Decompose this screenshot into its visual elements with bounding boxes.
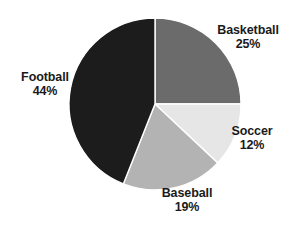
slice-label-baseball: Baseball 19% <box>141 186 233 214</box>
slice-label-baseball-name: Baseball <box>162 186 213 200</box>
slice-label-basketball-value: 25% <box>205 37 291 51</box>
slice-label-soccer-value: 12% <box>213 138 291 152</box>
slice-label-football: Football 44% <box>6 70 84 98</box>
slice-label-soccer: Soccer 12% <box>213 124 291 152</box>
slice-label-baseball-value: 19% <box>141 200 233 214</box>
slice-label-basketball-name: Basketball <box>217 23 279 37</box>
slice-label-basketball: Basketball 25% <box>205 23 291 51</box>
pie-chart-figure: Basketball 25% Soccer 12% Baseball 19% F… <box>0 0 296 227</box>
slice-label-football-value: 44% <box>6 84 84 98</box>
slice-label-soccer-name: Soccer <box>231 124 272 138</box>
slice-label-football-name: Football <box>21 70 69 84</box>
